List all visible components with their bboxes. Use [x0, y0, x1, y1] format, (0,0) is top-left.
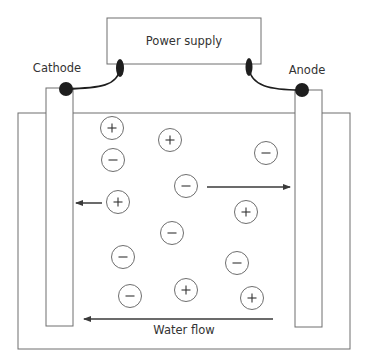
cation-ion [235, 201, 258, 224]
anode-connection-dot [295, 83, 309, 97]
cation-ion [107, 191, 130, 214]
cathode-plate [46, 88, 73, 326]
water-flow-label: Water flow [153, 325, 214, 337]
cation-ion [159, 129, 182, 152]
power-supply-label: Power supply [146, 36, 222, 48]
cation-ion [175, 279, 198, 302]
cathode-label: Cathode [33, 63, 81, 75]
anion-ion [102, 149, 125, 172]
electrokinetic-diagram [0, 0, 366, 359]
cathode-connection-dot [59, 82, 73, 96]
cation-ion [101, 117, 124, 140]
anion-ion [119, 285, 142, 308]
anion-ion [175, 175, 198, 198]
anode-plate [295, 90, 322, 327]
cation-ion [241, 287, 264, 310]
power-terminal-negative [116, 59, 124, 77]
anion-ion [112, 246, 135, 269]
anion-ion [255, 142, 278, 165]
anode-label: Anode [289, 65, 326, 77]
anion-ion [161, 222, 184, 245]
power-terminal-positive [246, 58, 253, 76]
anion-ion [226, 252, 249, 275]
